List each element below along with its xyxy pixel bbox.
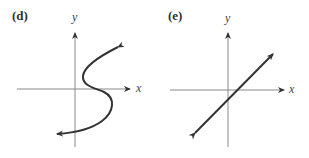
s-curve-d bbox=[57, 47, 118, 134]
graph-e-plot bbox=[155, 0, 309, 158]
graph-panel-d: (d) y x bbox=[0, 0, 155, 158]
graph-panel-e: (e) y x bbox=[155, 0, 309, 158]
graph-d-plot bbox=[0, 0, 155, 158]
line-e bbox=[195, 54, 273, 133]
